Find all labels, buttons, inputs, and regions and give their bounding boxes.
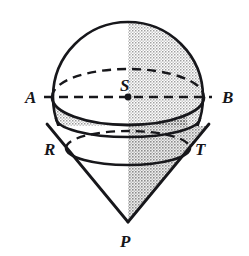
- figure-container: A B S R T P: [0, 0, 249, 256]
- label-R: R: [43, 140, 55, 159]
- label-B: B: [221, 88, 233, 107]
- label-T: T: [195, 140, 206, 159]
- label-A: A: [24, 88, 36, 107]
- label-P: P: [119, 232, 131, 251]
- geometry-figure: A B S R T P: [0, 0, 249, 256]
- label-S: S: [120, 76, 129, 95]
